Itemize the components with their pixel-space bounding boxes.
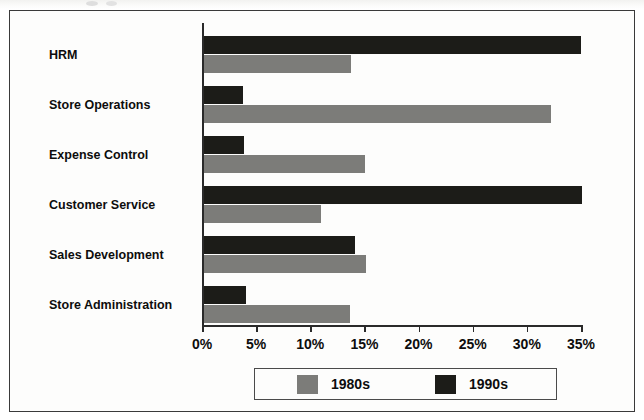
category-label: Expense Control bbox=[49, 148, 148, 162]
bar-1990s bbox=[204, 86, 243, 104]
bar-1990s bbox=[204, 186, 582, 204]
bar-1990s bbox=[204, 236, 355, 254]
bar-1980s bbox=[204, 255, 366, 273]
x-axis: 0%5%10%15%20%25%30%35% bbox=[202, 325, 592, 367]
x-axis-tick-label: 25% bbox=[459, 336, 487, 352]
category-label: Store Operations bbox=[49, 98, 150, 112]
legend-entry: 1990s bbox=[435, 374, 508, 394]
x-axis-tick bbox=[202, 325, 204, 332]
x-axis-line bbox=[202, 325, 583, 327]
x-axis-tick-label: 10% bbox=[296, 336, 324, 352]
x-axis-tick bbox=[364, 325, 366, 332]
bar-1980s bbox=[204, 205, 321, 223]
x-axis-tick-label: 30% bbox=[513, 336, 541, 352]
x-axis-tick bbox=[581, 325, 583, 332]
bar-1980s bbox=[204, 305, 350, 323]
x-axis-tick bbox=[473, 325, 475, 332]
x-axis-tick-label: 20% bbox=[405, 336, 433, 352]
bar-1980s bbox=[204, 155, 365, 173]
scan-artifact bbox=[0, 0, 644, 9]
x-axis-tick-label: 35% bbox=[567, 336, 595, 352]
bar-1990s bbox=[204, 286, 246, 304]
legend-label: 1990s bbox=[469, 376, 508, 392]
x-axis-tick bbox=[310, 325, 312, 332]
bar-1980s bbox=[204, 55, 351, 73]
x-axis-tick-label: 0% bbox=[192, 336, 212, 352]
plot-area bbox=[202, 23, 590, 325]
bar-1990s bbox=[204, 136, 244, 154]
legend-label: 1980s bbox=[331, 376, 370, 392]
x-axis-tick bbox=[256, 325, 258, 332]
x-axis-tick-label: 15% bbox=[350, 336, 378, 352]
category-label: HRM bbox=[49, 48, 77, 62]
bar-1980s bbox=[204, 105, 551, 123]
legend-swatch bbox=[297, 375, 318, 394]
legend-swatch bbox=[435, 375, 456, 394]
category-axis-labels: HRMStore OperationsExpense ControlCustom… bbox=[22, 23, 200, 325]
legend-entry: 1980s bbox=[297, 374, 370, 394]
category-label: Sales Development bbox=[49, 248, 164, 262]
category-label: Store Administration bbox=[49, 298, 172, 312]
chart-frame: HRMStore OperationsExpense ControlCustom… bbox=[9, 10, 635, 412]
x-axis-tick bbox=[419, 325, 421, 332]
chart-legend: 1980s1990s bbox=[254, 368, 557, 400]
x-axis-tick bbox=[527, 325, 529, 332]
category-label: Customer Service bbox=[49, 198, 155, 212]
x-axis-tick-label: 5% bbox=[246, 336, 266, 352]
bar-1990s bbox=[204, 36, 581, 54]
